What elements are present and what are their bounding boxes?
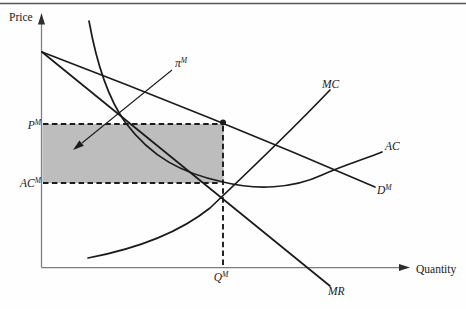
monopoly-price-label: PM [27,118,42,132]
profit-label: πM [175,56,188,70]
monopoly-average-cost-label: ACM [19,176,42,190]
x-axis-label: Quantity [416,263,456,276]
monopoly-quantity-sup: M [221,270,229,279]
monopoly-optimum-point [220,120,226,126]
y-axis-arrowhead-icon [38,13,45,25]
monopoly-diagram: Price Quantity PM ACM QM MC AC MR DM πM [0,0,466,309]
monopoly-average-cost-base: AC [19,177,35,189]
monopoly-price-base: P [27,119,35,131]
monopoly-quantity-label: QM [214,270,229,284]
y-axis-label: Price [9,11,33,23]
monopoly-price-sup: M [34,118,42,127]
marginal-cost-curve-label: MC [321,78,340,90]
profit-label-sup: M [180,56,188,65]
monopoly-average-cost-sup: M [34,176,42,185]
marginal-revenue-curve-label: MR [327,285,345,297]
figure-canvas: Price Quantity PM ACM QM MC AC MR DM πM [0,0,466,309]
demand-label-sup: M [384,183,392,192]
x-axis-arrowhead-icon [399,264,410,271]
demand-curve-label: DM [376,183,392,197]
average-cost-curve-label: AC [384,140,400,152]
